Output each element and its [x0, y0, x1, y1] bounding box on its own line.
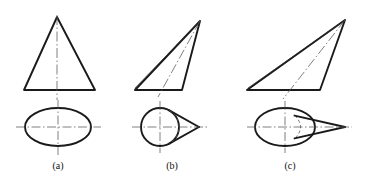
panel-c-top-upper-tangent: [295, 116, 346, 127]
panel-b-top-lower-tangent: [169, 127, 199, 144]
figure-label-a: (a): [52, 160, 63, 171]
cone-projection-drawing: [0, 0, 368, 186]
panel-b-top-upper-tangent: [169, 110, 199, 127]
panel-b-group: [132, 21, 208, 153]
panel-c-front-construction-line: [248, 20, 345, 88]
panel-a-group: [16, 15, 101, 155]
panel-c-top-lower-tangent: [295, 127, 346, 138]
panel-c-group: [247, 20, 352, 153]
figure-label-c: (c): [284, 160, 295, 171]
panel-a-front-triangle: [24, 17, 95, 90]
panel-c-front-axis-centerline: [283, 20, 345, 99]
panel-b-front-construction-line: [135, 21, 200, 88]
figure-label-b: (b): [166, 160, 178, 171]
